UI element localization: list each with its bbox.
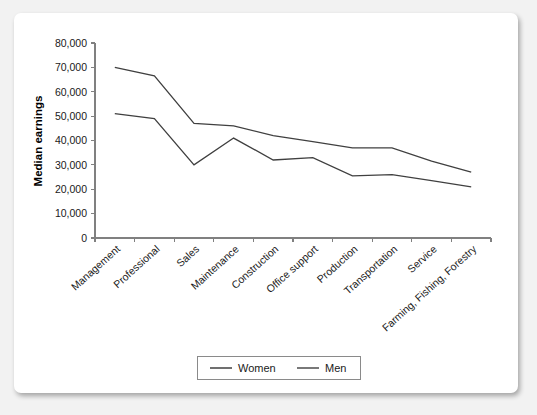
y-tick-label: 0: [81, 232, 87, 244]
y-axis-ticks: [91, 43, 95, 238]
y-tick-label: 30,000: [55, 159, 87, 171]
legend-label-men[interactable]: Men: [325, 362, 346, 374]
x-category-label: Sales: [174, 243, 202, 269]
chart-legend: WomenMen: [197, 356, 360, 379]
x-category-label: Service: [405, 242, 439, 274]
x-axis: ManagementProfessionalSalesMaintenanceCo…: [69, 238, 491, 333]
screenshot-root: 80,00070,00060,00050,00040,00030,00020,0…: [0, 0, 537, 415]
y-tick-label: 70,000: [55, 61, 87, 73]
y-tick-label: 40,000: [55, 134, 87, 146]
y-axis-title: Median earnings: [32, 96, 44, 187]
series-line-men: [115, 67, 471, 172]
data-series-group: [115, 67, 471, 186]
chart-card: 80,00070,00060,00050,00040,00030,00020,0…: [14, 13, 518, 393]
y-tick-label: 80,000: [55, 37, 87, 49]
y-axis-tick-labels: 80,00070,00060,00050,00040,00030,00020,0…: [55, 37, 87, 244]
y-tick-label: 20,000: [55, 183, 87, 195]
legend-label-women[interactable]: Women: [238, 362, 276, 374]
line-chart: 80,00070,00060,00050,00040,00030,00020,0…: [14, 13, 518, 393]
x-axis-ticks: [95, 238, 491, 242]
series-line-women: [115, 114, 471, 187]
y-tick-label: 60,000: [55, 86, 87, 98]
y-tick-label: 10,000: [55, 207, 87, 219]
y-axis: 80,00070,00060,00050,00040,00030,00020,0…: [32, 37, 95, 244]
y-tick-label: 50,000: [55, 110, 87, 122]
x-axis-category-labels: ManagementProfessionalSalesMaintenanceCo…: [69, 242, 480, 333]
